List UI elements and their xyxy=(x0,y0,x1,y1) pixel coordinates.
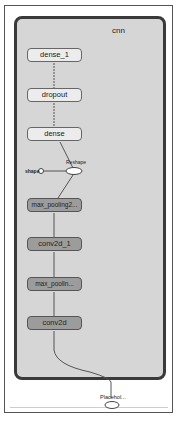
node-max-pooling2d-1[interactable]: max_pooling2... xyxy=(27,198,82,212)
node-conv2d[interactable]: conv2d xyxy=(27,316,82,330)
node-conv2d-1[interactable]: conv2d_1 xyxy=(27,237,82,251)
node-max-pooling2d[interactable]: max_poolin... xyxy=(27,277,82,291)
op-reshape-label: Reshape xyxy=(66,159,86,165)
op-placeholder-label: Placehol... xyxy=(100,394,126,400)
node-dense[interactable]: dense xyxy=(27,127,82,141)
node-dense-1[interactable]: dense_1 xyxy=(27,48,82,62)
node-dropout[interactable]: dropout xyxy=(27,88,82,102)
op-shape-label: shape xyxy=(25,168,39,174)
graph-edges xyxy=(0,0,179,425)
